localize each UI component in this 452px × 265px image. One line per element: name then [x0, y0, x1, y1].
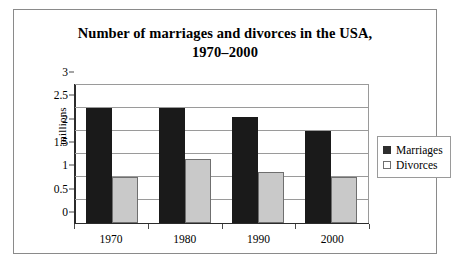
y-axis-tick-label: 2 — [62, 113, 68, 125]
y-axis-tick-label: 3 — [62, 66, 68, 78]
x-axis-tick-mark — [222, 224, 223, 229]
legend-swatch-icon — [383, 146, 391, 154]
bar-marriages-2000[interactable] — [305, 131, 331, 223]
plot-area — [74, 84, 369, 224]
x-axis-tick-mark — [295, 224, 296, 229]
x-axis-tick-mark — [148, 224, 149, 229]
bars-layer — [75, 85, 368, 223]
legend-item-divorces[interactable]: Divorces — [383, 157, 443, 172]
y-axis-tick-mark — [69, 72, 74, 73]
bar-divorces-1990[interactable] — [258, 172, 284, 223]
y-axis-tick-label: 0 — [62, 206, 68, 218]
plot-wrapper: millions 00.511.522.53 1970198019902000 — [74, 84, 369, 224]
bar-divorces-1970[interactable] — [112, 177, 138, 223]
y-axis-tick-label: 2.5 — [54, 89, 68, 101]
chart-title: Number of marriages and divorces in the … — [14, 24, 436, 62]
bar-group — [159, 85, 211, 223]
chart-title-line-1: Number of marriages and divorces in the … — [14, 24, 436, 43]
x-axis-tick-label: 1980 — [155, 233, 215, 245]
x-axis-tick-labels: 1970198019902000 — [74, 233, 369, 245]
bar-group — [232, 85, 284, 223]
legend-item-marriages[interactable]: Marriages — [383, 142, 443, 157]
y-axis-tick-label: 0.5 — [54, 183, 68, 195]
legend-item-label: Divorces — [396, 159, 438, 171]
bar-marriages-1980[interactable] — [159, 108, 185, 223]
bar-divorces-1980[interactable] — [185, 159, 211, 223]
bar-group — [86, 85, 138, 223]
x-axis-tick-label: 1990 — [228, 233, 288, 245]
x-axis-tick-mark — [74, 224, 75, 229]
bar-marriages-1970[interactable] — [86, 108, 112, 223]
x-axis-tick-marks — [74, 224, 369, 229]
chart-legend: MarriagesDivorces — [377, 136, 451, 178]
x-axis-tick-label: 2000 — [302, 233, 362, 245]
bar-divorces-2000[interactable] — [331, 177, 357, 223]
chart-figure: Number of marriages and divorces in the … — [13, 9, 437, 254]
x-axis-tick-mark — [369, 224, 370, 229]
legend-item-label: Marriages — [396, 144, 443, 156]
x-axis-tick-label: 1970 — [81, 233, 141, 245]
y-axis-tick-label: 1 — [62, 159, 68, 171]
y-axis-tick-labels: 00.511.522.53 — [42, 84, 68, 224]
bar-marriages-1990[interactable] — [232, 117, 258, 223]
y-axis-tick-label: 1.5 — [54, 136, 68, 148]
bar-group — [305, 85, 357, 223]
chart-title-line-2: 1970–2000 — [14, 43, 436, 62]
legend-swatch-icon — [383, 161, 391, 169]
